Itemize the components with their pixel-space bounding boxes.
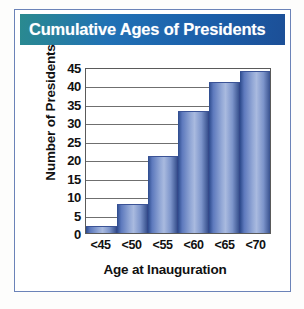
- bar: [178, 111, 209, 233]
- y-axis-tick-label: 30: [67, 117, 81, 130]
- chart-title: Cumulative Ages of Presidents: [29, 20, 266, 39]
- chart-figure-card: Cumulative Ages of Presidents Number of …: [14, 9, 291, 292]
- x-axis-tick-label: <70: [240, 238, 271, 252]
- x-axis-tick-label: <50: [116, 238, 147, 252]
- y-axis-tick-label: 20: [67, 154, 81, 167]
- bar: [86, 226, 117, 233]
- y-axis-tick-label: 45: [67, 62, 81, 75]
- x-axis-tick-label: <60: [178, 238, 209, 252]
- page-background: Cumulative Ages of Presidents Number of …: [0, 0, 304, 309]
- bar: [117, 204, 148, 234]
- x-axis-title: Age at Inauguration: [55, 262, 275, 277]
- bar: [209, 82, 240, 233]
- y-axis-tick-label: 40: [67, 80, 81, 93]
- x-axis-tick-labels: <45<50<55<60<65<70: [85, 238, 271, 252]
- x-axis-tick-label: <65: [209, 238, 240, 252]
- y-axis-tick-label: 15: [67, 172, 81, 185]
- y-axis-tick-label: 35: [67, 98, 81, 111]
- y-axis-tick-labels: 454035302520151050: [53, 68, 81, 234]
- y-axis-tick-label: 5: [74, 209, 81, 222]
- x-axis-tick-label: <55: [147, 238, 178, 252]
- bar-series: [86, 69, 270, 233]
- bar: [240, 71, 270, 233]
- plot-area: Number of Presidents 454035302520151050 …: [15, 50, 292, 290]
- chart-title-banner: Cumulative Ages of Presidents: [20, 14, 285, 45]
- y-axis-tick-label: 25: [67, 135, 81, 148]
- y-axis-tick-label: 10: [67, 191, 81, 204]
- x-axis-tick-label: <45: [85, 238, 116, 252]
- bar: [148, 156, 179, 233]
- plot-frame: [85, 68, 271, 234]
- y-axis-tick-label: 0: [74, 228, 81, 241]
